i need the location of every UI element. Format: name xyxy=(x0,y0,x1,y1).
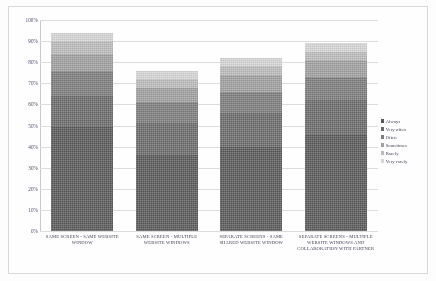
y-axis-tick-label: 100% xyxy=(4,17,38,23)
y-axis-tick-label: 30% xyxy=(4,165,38,171)
bar-segment xyxy=(51,41,113,54)
legend-swatch-icon xyxy=(381,119,384,122)
bar-segment xyxy=(51,126,113,232)
plot-area xyxy=(40,20,378,231)
legend-swatch-icon xyxy=(381,159,384,162)
y-axis-tick-label: 90% xyxy=(4,38,38,44)
y-axis-tick-label: 0% xyxy=(4,228,38,234)
bar-segment xyxy=(305,43,367,51)
x-axis-category-labels: SAME SCREEN - SAME WEBSITE WINDOWSAME SC… xyxy=(40,234,378,278)
legend-item[interactable]: Rarely xyxy=(381,149,429,157)
bar-segment xyxy=(136,155,198,231)
bar-segment xyxy=(305,100,367,134)
legend-item[interactable]: Always xyxy=(381,117,429,125)
bar-segment xyxy=(220,113,282,147)
bar-stack xyxy=(305,43,367,231)
bar-segment xyxy=(51,54,113,71)
bar-segment xyxy=(305,77,367,100)
bar-segment xyxy=(220,66,282,74)
bar-segment xyxy=(220,75,282,92)
bar-segment xyxy=(136,123,198,155)
legend-item[interactable]: Very rarely xyxy=(381,157,429,165)
legend-item[interactable]: Often xyxy=(381,133,429,141)
x-axis-category-label: SEPARATE SCREENS - MULTIPLE WEBSITE WIND… xyxy=(297,234,376,253)
y-axis-tick-labels: 100%90%80%70%60%50%40%30%20%10%0% xyxy=(0,20,38,232)
legend-swatch-icon xyxy=(381,135,384,138)
bar-stack xyxy=(136,71,198,231)
x-axis-category-label: SAME SCREEN - SAME WEBSITE WINDOW xyxy=(43,234,122,246)
bar-segment xyxy=(305,52,367,60)
gridline xyxy=(40,20,378,21)
bar-segment xyxy=(220,58,282,66)
bar-segment xyxy=(136,71,198,79)
bar-segment xyxy=(136,102,198,123)
y-axis-tick-label: 70% xyxy=(4,80,38,86)
bar-segment xyxy=(51,33,113,41)
bar-segment xyxy=(136,79,198,87)
x-axis-category-label: SEPARATE SCREENS - SAME SHARED WEBSITE W… xyxy=(212,234,291,246)
legend-label: Rarely xyxy=(386,151,399,156)
bar-stack xyxy=(51,33,113,231)
legend-label: Sometimes xyxy=(386,143,407,148)
y-axis-tick-label: 10% xyxy=(4,207,38,213)
y-axis-tick-label: 80% xyxy=(4,59,38,65)
bar-segment xyxy=(305,134,367,231)
legend-swatch-icon xyxy=(381,151,384,154)
legend-swatch-icon xyxy=(381,143,384,146)
legend-label: Very rarely xyxy=(386,159,408,164)
y-axis-tick-label: 20% xyxy=(4,186,38,192)
bar-segment xyxy=(136,88,198,103)
bar-stack xyxy=(220,58,282,231)
legend-item[interactable]: Very often xyxy=(381,125,429,133)
bar-segment xyxy=(305,60,367,77)
chart-legend: AlwaysVery oftenOftenSometimesRarelyVery… xyxy=(381,117,429,165)
y-axis-tick-label: 50% xyxy=(4,123,38,129)
y-axis-tick-label: 60% xyxy=(4,101,38,107)
bar-segment xyxy=(220,147,282,231)
y-axis-tick-label: 40% xyxy=(4,144,38,150)
legend-label: Very often xyxy=(386,127,406,132)
bar-segment xyxy=(220,92,282,113)
legend-swatch-icon xyxy=(381,127,384,130)
legend-label: Often xyxy=(386,135,397,140)
bar-segment xyxy=(51,71,113,96)
legend-item[interactable]: Sometimes xyxy=(381,141,429,149)
chart-figure: 100%90%80%70%60%50%40%30%20%10%0% SAME S… xyxy=(0,0,436,281)
x-axis-category-label: SAME SCREEN - MULTIPLE WEBSITE WINDOWS xyxy=(128,234,207,246)
gridline xyxy=(40,231,378,232)
legend-label: Always xyxy=(386,119,401,124)
bar-segment xyxy=(51,96,113,126)
